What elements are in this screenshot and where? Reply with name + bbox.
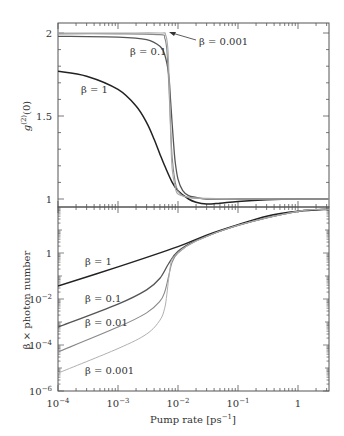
top-annotation-beta-0.001: β = 0.001 — [199, 36, 248, 47]
top-annotation-beta-1: β = 1 — [81, 84, 108, 95]
series-line — [58, 209, 329, 327]
bottom-annotation-beta-0.1: β = 0.1 — [85, 293, 121, 304]
top-y-axis-label: g(2)(0) — [20, 101, 32, 132]
figure: 2 1.5 1 g(2)(0) β = 0.001 β = 0.1 β = 1 … — [0, 0, 344, 436]
xtick-label-1e-1: 10−1 — [226, 397, 249, 409]
series-line — [58, 209, 329, 373]
xtick-label-1e-2: 10−2 — [166, 397, 189, 409]
bottom-panel: 1 10−2 10−4 10−6 10−4 10−3 10−2 10−1 1 P… — [21, 207, 329, 425]
bottom-ytick-label-1e-4: 10−4 — [29, 339, 53, 351]
arrowhead-icon — [169, 32, 176, 36]
series-line — [58, 34, 329, 199]
bottom-annotation-beta-0.001: β = 0.001 — [85, 365, 134, 376]
x-axis-label: Pump rate [ps−1] — [150, 413, 236, 425]
top-panel: 2 1.5 1 g(2)(0) β = 0.001 β = 0.1 β = 1 — [20, 23, 329, 207]
bottom-ytick-label-1: 1 — [46, 248, 52, 259]
top-plot-frame — [58, 23, 329, 207]
bottom-ytick-label-1e-6: 10−6 — [29, 385, 53, 397]
top-ytick-label-1.5: 1.5 — [36, 111, 52, 122]
bottom-curves — [58, 209, 329, 373]
annotation-arrow — [172, 33, 196, 40]
series-line — [58, 209, 329, 352]
series-line — [58, 36, 329, 199]
bottom-annotation-beta-0.01: β = 0.01 — [85, 317, 128, 328]
bottom-annotation-beta-1: β = 1 — [85, 256, 112, 267]
series-line — [58, 209, 329, 286]
top-annotation-beta-0.1: β = 0.1 — [130, 46, 166, 57]
top-y-ticks — [58, 33, 329, 199]
bottom-ytick-label-1e-2: 10−2 — [29, 293, 52, 305]
top-ytick-label-2: 2 — [46, 28, 52, 39]
xtick-label-1e-4: 10−4 — [46, 397, 70, 409]
top-x-ticks — [58, 23, 327, 207]
bottom-y-axis-label: β × photon number — [21, 251, 32, 350]
xtick-label-1e-3: 10−3 — [106, 397, 129, 409]
series-line — [58, 33, 329, 199]
top-ytick-label-1: 1 — [46, 194, 52, 205]
top-curves — [58, 33, 329, 204]
xtick-label-1: 1 — [295, 398, 301, 409]
